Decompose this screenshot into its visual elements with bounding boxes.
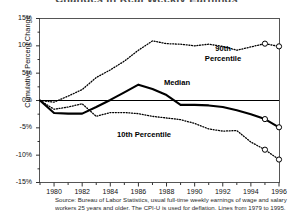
series-label-10th-percentile: 10th Percentile (108, 130, 180, 139)
series-label-90th-percentile: 90th Percentile (188, 44, 258, 64)
chart-figure: Changes in Real Weekly Earnings Cumulati… (0, 0, 293, 215)
plot-area (0, 0, 293, 215)
y-tick-label: 0% (4, 96, 32, 103)
y-tick-label: 10% (4, 41, 32, 48)
source-note: Source: Bureau of Labor Statistics, usua… (55, 196, 293, 215)
x-tick-label: 1996 (262, 188, 293, 195)
y-tick-label: -5% (4, 123, 32, 130)
series-label-90th-line2: Percentile (188, 54, 258, 64)
series-label-median: Median (152, 78, 202, 87)
data-point-marker (262, 41, 267, 46)
data-point-marker (262, 116, 267, 121)
data-point-marker (276, 125, 281, 130)
data-point-marker (262, 147, 267, 152)
y-tick-label: -15% (4, 178, 32, 185)
y-tick-label: 15% (4, 14, 32, 21)
series-label-90th-line1: 90th (188, 44, 258, 54)
data-point-marker (276, 44, 281, 49)
y-tick-label: -10% (4, 151, 32, 158)
data-point-marker (276, 157, 281, 162)
y-tick-label: 5% (4, 69, 32, 76)
